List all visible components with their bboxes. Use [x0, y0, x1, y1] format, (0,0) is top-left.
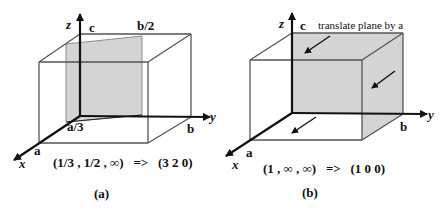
a-third-label: a/3: [67, 119, 84, 134]
c-vector-label: c: [300, 18, 306, 33]
translate-annotation: translate plane by a: [318, 19, 403, 31]
caption-a: (a): [94, 186, 109, 201]
caption-b: (b): [302, 185, 318, 200]
b-vector-label: b: [187, 121, 194, 136]
a-vector-label: a: [34, 143, 41, 158]
y-axis-label: y: [426, 107, 434, 122]
a-vector-label: a: [246, 145, 253, 160]
c-vector-label: c: [89, 20, 95, 35]
plane-320: [66, 36, 142, 122]
x-axis-label: x: [18, 156, 26, 171]
x-axis-label: x: [231, 157, 239, 172]
b-vector-label: b: [400, 119, 407, 134]
x-axis: [226, 113, 292, 156]
y-axis-label: y: [208, 109, 216, 124]
z-axis-label: z: [65, 17, 72, 32]
plane-100-front: [292, 60, 362, 114]
b-half-label: b/2: [137, 18, 154, 33]
miller-indices-figure: z c b/2 y b a/3 a x (1/3 , 1/2 , ∞) => (…: [0, 0, 445, 210]
panel-b: z c translate plane by a y b a x (1 , ∞ …: [226, 13, 434, 200]
formula-a: (1/3 , 1/2 , ∞) => (3 2 0): [53, 155, 193, 170]
translate-arrow-bottom: [292, 117, 316, 133]
panel-a: z c b/2 y b a/3 a x (1/3 , 1/2 , ∞) => (…: [14, 14, 216, 201]
y-axis: [80, 116, 210, 117]
formula-b: (1 , ∞ , ∞) => (1 0 0): [263, 161, 385, 176]
z-axis-label: z: [278, 16, 285, 31]
y-axis: [292, 113, 427, 114]
